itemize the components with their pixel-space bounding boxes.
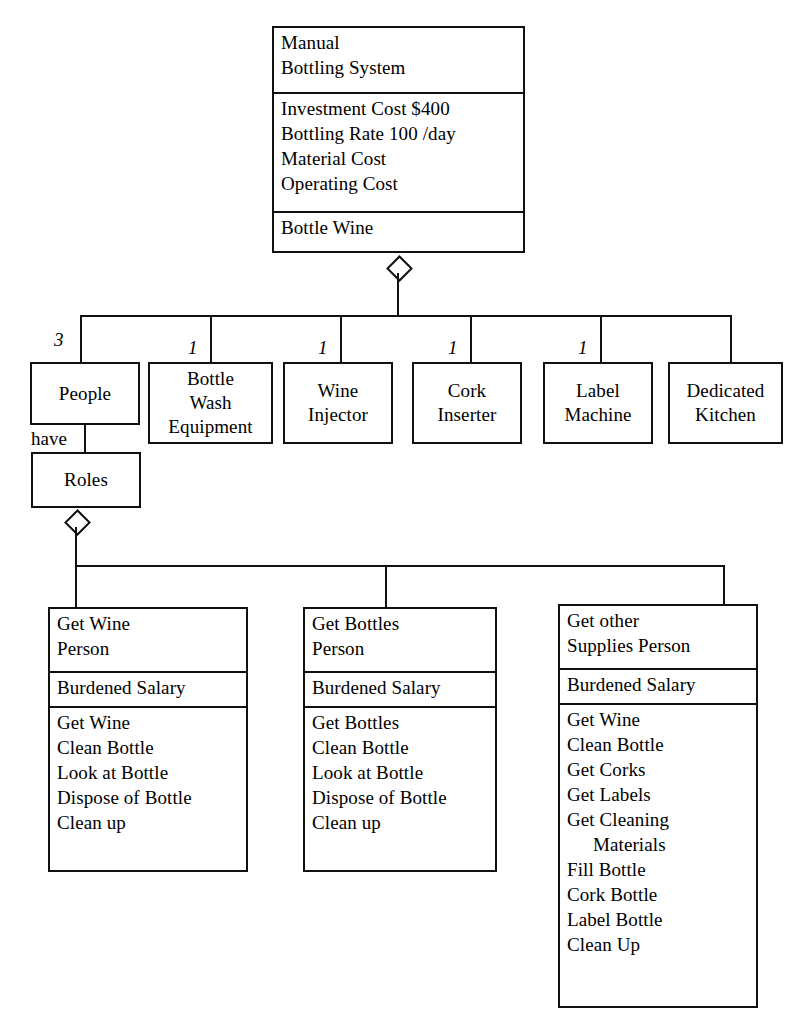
class-box-get-wine-person[interactable]: Get Wine Person Burdened Salary Get Wine… bbox=[48, 607, 248, 872]
operation-row-continuation: Materials bbox=[567, 832, 749, 857]
class-name-line: Label bbox=[576, 379, 620, 403]
operation-row: Clean Bottle bbox=[567, 732, 749, 757]
parts-bus-line bbox=[80, 315, 732, 317]
class-name-line: Machine bbox=[564, 403, 631, 427]
aggregation-diamond-roles bbox=[64, 509, 91, 536]
class-box-bottle-wash-equipment[interactable]: Bottle Wash Equipment bbox=[148, 362, 273, 444]
class-name-line: Get Wine bbox=[57, 611, 239, 636]
class-name-line: Get other bbox=[567, 608, 749, 633]
aggregation-diamond-root bbox=[386, 255, 413, 282]
operation-row: Clean Up bbox=[567, 932, 749, 957]
class-name-compartment: Manual Bottling System bbox=[274, 28, 523, 92]
class-name-line: Cork bbox=[448, 379, 486, 403]
operation-row: Get Cleaning bbox=[567, 807, 749, 832]
class-box-dedicated-kitchen[interactable]: Dedicated Kitchen bbox=[668, 362, 783, 444]
connector-bus-to-get-wine-person bbox=[75, 565, 77, 607]
operations-compartment: Get Wine Clean Bottle Look at Bottle Dis… bbox=[50, 706, 246, 838]
class-box-get-other-supplies-person[interactable]: Get other Supplies Person Burdened Salar… bbox=[558, 604, 758, 1008]
class-box-manual-bottling-system[interactable]: Manual Bottling System Investment Cost $… bbox=[272, 26, 525, 253]
attribute-row: Material Cost bbox=[281, 146, 516, 171]
class-box-people[interactable]: People bbox=[30, 362, 140, 425]
attributes-compartment: Burdened Salary bbox=[50, 671, 246, 706]
operation-row: Get Corks bbox=[567, 757, 749, 782]
operation-row: Bottle Wine bbox=[281, 215, 516, 240]
operation-row: Dispose of Bottle bbox=[57, 785, 239, 810]
roles-bus-line bbox=[75, 565, 725, 567]
class-name-line: Equipment bbox=[168, 415, 252, 439]
connector-people-to-roles bbox=[84, 425, 86, 452]
operation-row: Get Bottles bbox=[312, 710, 488, 735]
class-name-line: Supplies Person bbox=[567, 633, 749, 658]
class-name-line: Person bbox=[312, 636, 488, 661]
attribute-row: Burdened Salary bbox=[312, 675, 488, 700]
class-name-compartment: Get other Supplies Person bbox=[560, 606, 756, 668]
operation-row: Clean up bbox=[57, 810, 239, 835]
operations-compartment: Get Wine Clean Bottle Get Corks Get Labe… bbox=[560, 703, 756, 960]
class-name-line: Bottle bbox=[187, 367, 234, 391]
class-diagram-canvas: Manual Bottling System Investment Cost $… bbox=[0, 0, 811, 1034]
attributes-compartment: Burdened Salary bbox=[560, 668, 756, 703]
operations-compartment: Get Bottles Clean Bottle Look at Bottle … bbox=[305, 706, 495, 838]
class-name-line: Wash bbox=[189, 391, 231, 415]
association-label-have: have bbox=[31, 429, 67, 448]
class-box-roles[interactable]: Roles bbox=[31, 452, 141, 508]
attribute-row: Burdened Salary bbox=[567, 672, 749, 697]
class-name-line: Injector bbox=[308, 403, 368, 427]
class-name-compartment: Get Bottles Person bbox=[305, 609, 495, 671]
attributes-compartment: Burdened Salary bbox=[305, 671, 495, 706]
attribute-row: Investment Cost $400 bbox=[281, 96, 516, 121]
class-name-line: Person bbox=[57, 636, 239, 661]
attribute-row: Burdened Salary bbox=[57, 675, 239, 700]
attributes-compartment: Investment Cost $400 Bottling Rate 100 /… bbox=[274, 92, 523, 211]
class-name-line: Get Bottles bbox=[312, 611, 488, 636]
class-name-line: People bbox=[59, 382, 111, 406]
operation-row: Get Labels bbox=[567, 782, 749, 807]
class-box-get-bottles-person[interactable]: Get Bottles Person Burdened Salary Get B… bbox=[303, 607, 497, 872]
connector-roles-to-bus bbox=[75, 527, 77, 565]
attribute-row: Operating Cost bbox=[281, 171, 516, 196]
connector-bus-to-get-other-supplies-person bbox=[723, 565, 725, 607]
connector-bus-to-bottle-wash-equipment bbox=[210, 315, 212, 362]
class-box-wine-injector[interactable]: Wine Injector bbox=[283, 362, 393, 444]
operation-row: Dispose of Bottle bbox=[312, 785, 488, 810]
attribute-row: Bottling Rate 100 /day bbox=[281, 121, 516, 146]
class-name-line: Bottling System bbox=[281, 55, 516, 80]
multiplicity-people: 3 bbox=[54, 330, 64, 349]
multiplicity-bottle-wash-equipment: 1 bbox=[188, 338, 198, 357]
connector-bus-to-wine-injector bbox=[340, 315, 342, 362]
class-name-line: Manual bbox=[281, 30, 516, 55]
connector-bus-to-people bbox=[80, 315, 82, 362]
operation-row: Clean Bottle bbox=[312, 735, 488, 760]
operation-row: Get Wine bbox=[57, 710, 239, 735]
connector-bus-to-dedicated-kitchen bbox=[730, 315, 732, 362]
class-name-line: Kitchen bbox=[695, 403, 756, 427]
operation-row: Get Wine bbox=[567, 707, 749, 732]
class-name-line: Roles bbox=[64, 468, 108, 492]
connector-bus-to-get-bottles-person bbox=[385, 565, 387, 607]
operation-row: Cork Bottle bbox=[567, 882, 749, 907]
class-box-cork-inserter[interactable]: Cork Inserter bbox=[412, 362, 522, 444]
operation-row: Clean Bottle bbox=[57, 735, 239, 760]
connector-bus-to-cork-inserter bbox=[470, 315, 472, 362]
operation-row: Look at Bottle bbox=[312, 760, 488, 785]
connector-bus-to-label-machine bbox=[600, 315, 602, 362]
operation-row: Clean up bbox=[312, 810, 488, 835]
class-name-line: Wine bbox=[318, 379, 359, 403]
operation-row: Look at Bottle bbox=[57, 760, 239, 785]
class-name-line: Dedicated bbox=[687, 379, 765, 403]
multiplicity-cork-inserter: 1 bbox=[448, 338, 458, 357]
operation-row: Fill Bottle bbox=[567, 857, 749, 882]
multiplicity-label-machine: 1 bbox=[578, 338, 588, 357]
class-box-label-machine[interactable]: Label Machine bbox=[543, 362, 653, 444]
multiplicity-wine-injector: 1 bbox=[318, 338, 328, 357]
operations-compartment: Bottle Wine bbox=[274, 211, 523, 243]
operation-row: Label Bottle bbox=[567, 907, 749, 932]
connector-root-to-bus bbox=[397, 273, 399, 315]
class-name-line: Inserter bbox=[438, 403, 497, 427]
class-name-compartment: Get Wine Person bbox=[50, 609, 246, 671]
